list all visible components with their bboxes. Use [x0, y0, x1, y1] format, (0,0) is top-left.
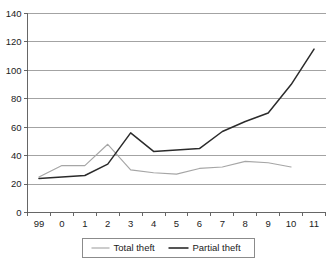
y-tick-label: 100	[6, 65, 22, 76]
chart-canvas: 020406080100120140 9901234567891011 Tota…	[0, 0, 332, 264]
series-line-partial-theft	[39, 49, 314, 178]
y-axis-tickmarks	[24, 14, 28, 213]
y-tick-label: 0	[16, 207, 21, 218]
y-axis-tick-labels: 020406080100120140	[6, 8, 22, 218]
x-tick-label: 8	[243, 218, 248, 229]
x-tick-label: 2	[105, 218, 110, 229]
series-line-total-theft	[39, 144, 291, 177]
legend-label-partial-theft: Partial theft	[193, 242, 241, 253]
x-axis-tick-labels: 9901234567891011	[34, 218, 319, 229]
x-tick-label: 5	[174, 218, 179, 229]
x-tick-label: 99	[34, 218, 45, 229]
x-tick-label: 11	[309, 218, 319, 229]
y-tick-label: 40	[11, 150, 22, 161]
x-tick-label: 6	[197, 218, 202, 229]
y-tick-label: 60	[11, 122, 22, 133]
x-tick-label: 7	[220, 218, 225, 229]
y-tick-label: 140	[6, 8, 22, 19]
x-tick-label: 10	[286, 218, 297, 229]
x-tick-label: 9	[266, 218, 271, 229]
x-tick-label: 3	[128, 218, 133, 229]
y-tick-label: 120	[6, 36, 22, 47]
legend-label-total-theft: Total theft	[114, 242, 156, 253]
chart-legend: Total theft Partial theft	[83, 239, 255, 258]
y-tick-label: 80	[11, 93, 22, 104]
line-chart: 020406080100120140 9901234567891011 Tota…	[0, 0, 332, 264]
x-tick-label: 0	[59, 218, 64, 229]
y-tick-label: 20	[11, 178, 22, 189]
x-tick-label: 4	[151, 218, 156, 229]
x-tick-label: 1	[82, 218, 87, 229]
gridlines	[28, 14, 326, 185]
x-axis-tickmarks	[28, 213, 326, 217]
